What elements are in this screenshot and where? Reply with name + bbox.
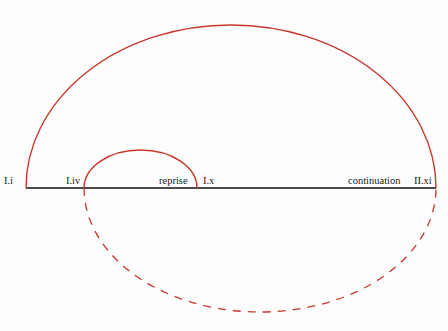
label-continuation: continuation [348, 176, 401, 187]
arc-diagram: I.i I.iv reprise I.x continuation II.xi [0, 0, 448, 331]
label-i: I.i [4, 176, 13, 187]
dashed-arc [84, 188, 436, 312]
label-xi: II.xi [414, 176, 432, 187]
large-arc [26, 25, 436, 188]
label-iv: I.iv [66, 176, 80, 187]
label-reprise: reprise [159, 176, 188, 187]
diagram-graphics [0, 0, 448, 331]
label-x: I.x [203, 176, 214, 187]
